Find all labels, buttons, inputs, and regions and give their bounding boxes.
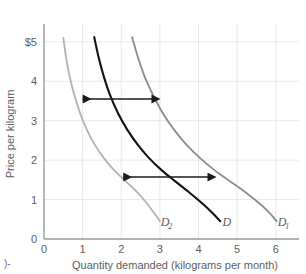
x-tick-label-6: 6 <box>273 243 279 255</box>
x-tick-label-2: 2 <box>118 243 124 255</box>
chart-canvas: 012345601234$5 D2DD1 Quantity demanded (… <box>0 0 306 274</box>
y-tick-label-3: 3 <box>31 115 37 127</box>
y-tick-label-2: 2 <box>31 154 37 166</box>
demand-curve-d <box>94 37 220 221</box>
y-tick-label-5: $5 <box>25 36 37 48</box>
demand-curve-d1 <box>132 37 277 221</box>
x-tick-label-0: 0 <box>41 243 47 255</box>
y-tick-label-4: 4 <box>31 75 37 87</box>
curve-label-d: D <box>222 215 232 229</box>
y-tick-label-0: 0 <box>31 233 37 245</box>
demand-curve-d2 <box>63 38 160 221</box>
curve-labels: D2DD1 <box>160 215 290 232</box>
curve-label-subscript-d2: 2 <box>168 222 172 231</box>
y-axis-title: Price per kilogram <box>4 90 16 179</box>
demand-curves <box>63 37 276 221</box>
x-axis-title: Quantity demanded (kilograms per month) <box>72 259 278 271</box>
curve-label-subscript-d1: 1 <box>285 222 289 231</box>
x-tick-label-3: 3 <box>157 243 163 255</box>
y-tick-label-1: 1 <box>31 194 37 206</box>
demand-shift-chart: 012345601234$5 D2DD1 Quantity demanded (… <box>0 0 306 274</box>
x-tick-label-4: 4 <box>195 243 201 255</box>
x-tick-label-5: 5 <box>234 243 240 255</box>
tick-labels: 012345601234$5 <box>25 36 279 255</box>
shift-arrows <box>83 99 209 177</box>
gridlines <box>44 24 299 239</box>
x-tick-label-1: 1 <box>80 243 86 255</box>
corner-artifact-mark: )- <box>4 258 11 269</box>
